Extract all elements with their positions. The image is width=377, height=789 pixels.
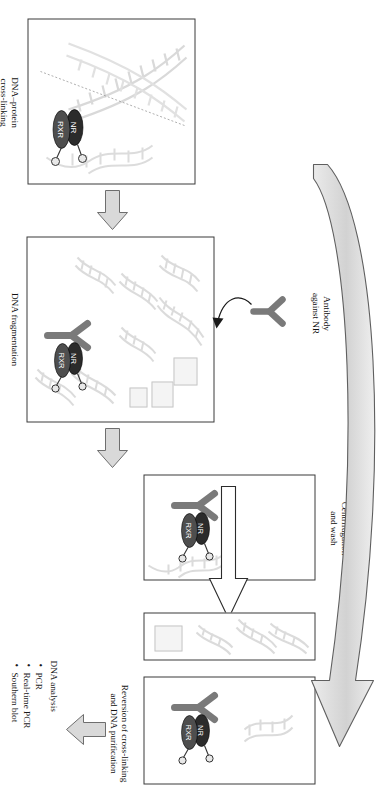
nr-rxr-complex: NR RXR	[44, 103, 90, 175]
svg-text:NR: NR	[196, 725, 205, 736]
dna-helix-icon	[117, 325, 157, 369]
dna-fragment-box	[129, 387, 147, 407]
label-crosslinking: DNA–protein cross-linking	[0, 52, 19, 152]
label-crosslinking-line1: DNA–protein	[9, 77, 19, 128]
dna-fragment-box	[151, 381, 173, 407]
curved-pointer-icon	[209, 288, 253, 348]
label-crosslinking-line2: cross-linking	[0, 78, 8, 126]
label-fragmentation-text: DNA fragmentation	[9, 292, 19, 365]
label-reversion-line1: Reversion of cross-linking	[119, 684, 129, 781]
panel-crosslinking: NR RXR	[27, 18, 195, 184]
list-item: Real-time PCR	[20, 672, 32, 789]
block-arrow-icon	[95, 190, 129, 230]
dna-analysis-list: PCR Real-time PCR Southern blot	[8, 660, 44, 789]
svg-text:NR: NR	[69, 353, 78, 364]
label-reversion: Reversion of cross-linking and DNA purif…	[107, 638, 129, 789]
list-item: Southern blot	[8, 672, 20, 789]
panel-reversion: NR RXR	[143, 676, 315, 784]
long-hollow-arrow-icon	[207, 486, 249, 620]
block-arrow-icon	[95, 428, 129, 468]
dna-helix-icon	[155, 293, 207, 349]
block-arrow-icon	[65, 712, 105, 746]
antibody-y-icon	[251, 296, 285, 326]
nr-rxr-complex: NR RXR	[170, 693, 218, 769]
svg-text:NR: NR	[196, 523, 205, 534]
antibody-y-icon	[47, 323, 87, 347]
svg-text:RXR: RXR	[57, 352, 66, 369]
dna-analysis-heading: DNA analysis	[47, 660, 59, 789]
list-item: PCR	[32, 672, 44, 789]
panel-precipitate-strip	[143, 612, 315, 660]
dna-helix-icon	[117, 271, 159, 317]
dna-analysis-block: DNA analysis PCR Real-time PCR Southern …	[8, 660, 59, 789]
dna-helix-icon	[194, 623, 234, 655]
antibody-y-icon	[174, 695, 214, 719]
dna-fragment-box	[154, 625, 182, 651]
dna-helix-icon	[234, 709, 294, 745]
dna-fragment-box	[173, 357, 197, 385]
svg-text:RXR: RXR	[56, 121, 65, 138]
svg-text:RXR: RXR	[184, 724, 193, 741]
dna-helix-icon	[234, 617, 278, 655]
svg-text:NR: NR	[69, 121, 78, 133]
svg-text:RXR: RXR	[184, 522, 193, 539]
nr-rxr-complex: NR RXR	[43, 321, 91, 397]
label-fragmentation: DNA fragmentation	[8, 269, 19, 389]
dna-helix-icon	[73, 255, 117, 299]
panel-fragmentation: NR RXR	[26, 236, 214, 422]
curved-arrow-icon	[309, 160, 377, 770]
label-reversion-line2: and DNA purification	[108, 693, 118, 773]
